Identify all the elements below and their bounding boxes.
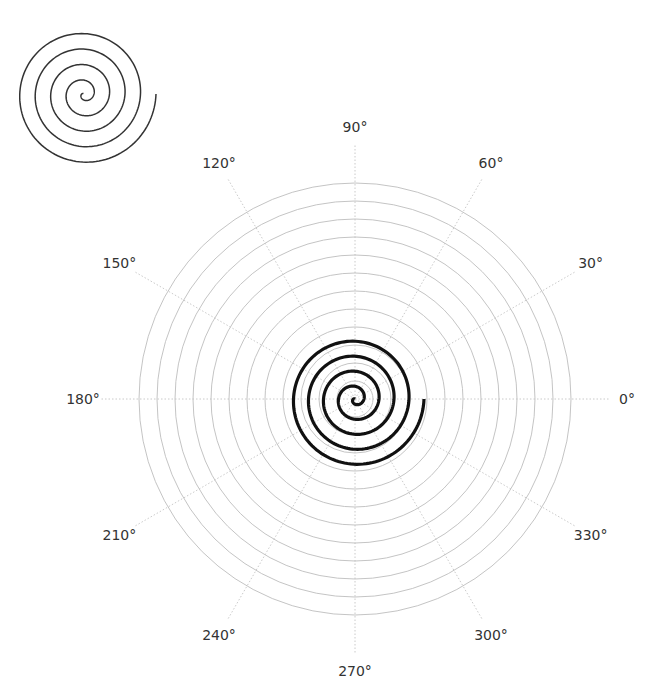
angle-label-240: 240° bbox=[202, 627, 236, 643]
angle-label-300: 300° bbox=[474, 627, 508, 643]
angle-label-0: 0° bbox=[619, 391, 635, 407]
main-spiral-curve bbox=[293, 341, 424, 464]
angle-label-120: 120° bbox=[202, 155, 236, 171]
polar-spiral-chart: 0°30°60°90°120°150°180°210°240°270°300°3… bbox=[0, 0, 670, 681]
spiral-thumbnail bbox=[20, 34, 156, 163]
angle-label-270: 270° bbox=[338, 663, 372, 679]
angle-label-330: 330° bbox=[574, 527, 608, 543]
angle-label-150: 150° bbox=[103, 255, 137, 271]
angle-label-30: 30° bbox=[578, 255, 603, 271]
thumbnail-spiral-curve bbox=[20, 34, 156, 163]
angle-label-180: 180° bbox=[66, 391, 100, 407]
angle-label-60: 60° bbox=[479, 155, 504, 171]
angle-label-210: 210° bbox=[103, 527, 137, 543]
angle-label-90: 90° bbox=[343, 119, 368, 135]
